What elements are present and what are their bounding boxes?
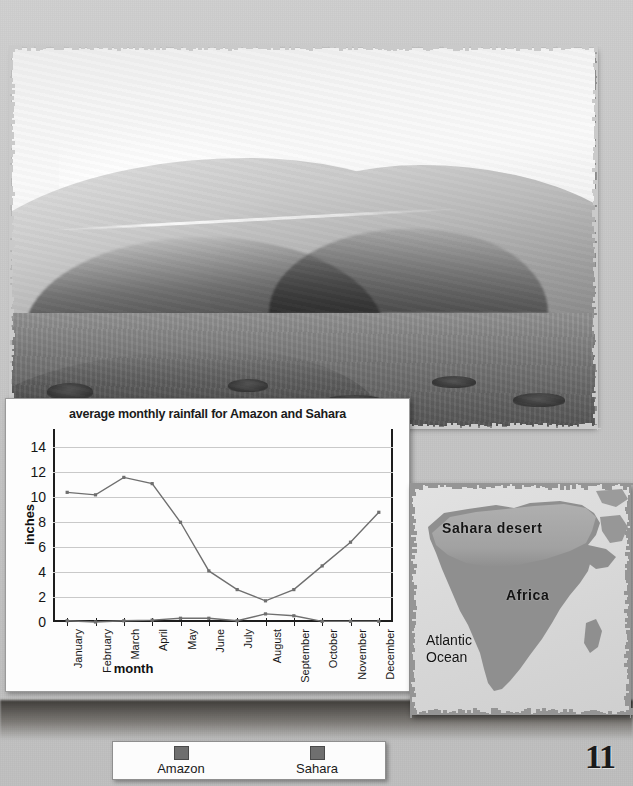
data-point (179, 617, 182, 620)
data-point (66, 491, 69, 494)
data-point (349, 620, 352, 623)
photo-scrub-bush (228, 379, 268, 392)
y-tick-label: 8 (38, 514, 46, 530)
x-tick-label: August (271, 629, 283, 663)
series-line-sahara (67, 614, 379, 622)
map-label-africa: Africa (506, 587, 549, 603)
series-line-amazon (67, 477, 379, 600)
legend-item-sahara: Sahara (249, 745, 385, 776)
chart-x-axis-label: month (6, 661, 261, 676)
y-tick-label: 6 (38, 539, 46, 555)
rainfall-chart-panel: average monthly rainfall for Amazon and … (5, 398, 410, 692)
y-tick-label: 12 (30, 464, 46, 480)
x-tick-label: April (157, 629, 169, 651)
x-tick-label: May (186, 629, 198, 650)
sand-dunes-photo (12, 48, 595, 426)
data-point (207, 617, 210, 620)
page-number: 11 (585, 738, 615, 776)
data-point (377, 511, 380, 514)
x-tick-label: March (129, 629, 141, 660)
chart-legend: Amazon Sahara (112, 741, 386, 780)
map-label-sahara-desert: Sahara desert (442, 520, 542, 536)
data-point (264, 612, 267, 615)
data-point (321, 564, 324, 567)
data-point (292, 614, 295, 617)
data-point (94, 493, 97, 496)
x-tick-label: November (356, 629, 368, 680)
photo-frame (12, 48, 595, 426)
chart-title: average monthly rainfall for Amazon and … (6, 407, 409, 421)
data-point (179, 521, 182, 524)
map-frame: Sahara desert Africa Atlantic Ocean (410, 483, 631, 715)
photo-scrub-bush (47, 383, 93, 400)
x-tick-label: October (327, 629, 339, 668)
data-point (94, 620, 97, 623)
data-point (236, 619, 239, 622)
africa-map-inset: Sahara desert Africa Atlantic Ocean (410, 483, 631, 715)
data-point (122, 476, 125, 479)
data-point (292, 588, 295, 591)
data-point (349, 541, 352, 544)
data-point (321, 620, 324, 623)
data-point (236, 588, 239, 591)
legend-swatch-icon (174, 746, 189, 760)
legend-label: Amazon (157, 761, 205, 776)
y-tick-label: 10 (30, 489, 46, 505)
data-point (122, 619, 125, 622)
data-point (207, 569, 210, 572)
x-tick-label: December (384, 629, 396, 680)
x-tick-label: July (242, 629, 254, 649)
x-tick-label: September (299, 629, 311, 683)
chart-plot-area: 02468101214 JanuaryFebruaryMarchAprilMay… (53, 435, 393, 622)
data-point (151, 482, 154, 485)
legend-swatch-icon (310, 746, 325, 760)
data-point (151, 619, 154, 622)
y-tick-label: 2 (38, 589, 46, 605)
data-point (264, 599, 267, 602)
chart-series-layer (53, 435, 393, 622)
legend-label: Sahara (296, 761, 338, 776)
photo-scrub-bush (432, 376, 476, 388)
x-tick-label: June (214, 629, 226, 653)
map-label-atlantic-ocean: Atlantic Ocean (426, 632, 472, 666)
y-tick-label: 0 (38, 614, 46, 630)
data-point (66, 619, 69, 622)
chart-y-axis-label: inches (22, 504, 37, 545)
y-tick-label: 4 (38, 564, 46, 580)
y-tick-label: 14 (30, 439, 46, 455)
data-point (377, 620, 380, 623)
legend-item-amazon: Amazon (113, 745, 249, 776)
photo-scrub-bush (513, 393, 565, 407)
